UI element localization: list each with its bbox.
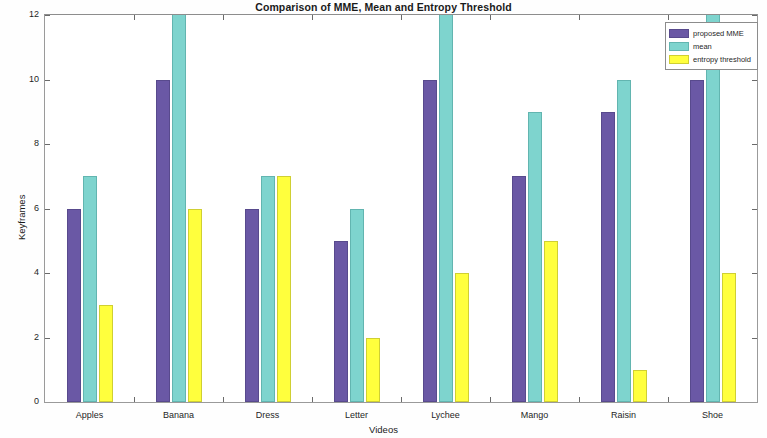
x-axis-tick	[312, 15, 313, 20]
legend-swatch-mean	[669, 42, 689, 51]
bar-letter-series-1	[350, 209, 364, 403]
bar-letter-series-2	[366, 338, 380, 403]
y-axis-tick-label: 4	[5, 267, 39, 277]
x-axis-title: Videos	[0, 424, 767, 435]
legend-swatch-proposed-mme	[669, 29, 689, 38]
y-axis-tick	[45, 15, 50, 16]
y-axis-tick	[752, 402, 757, 403]
bar-dress-series-0	[245, 209, 259, 403]
bar-mango-series-2	[544, 241, 558, 402]
x-axis-category-lychee: Lychee	[431, 410, 460, 420]
x-axis-category-letter: Letter	[345, 410, 368, 420]
x-axis-tick	[401, 397, 402, 402]
bar-banana-series-2	[188, 209, 202, 403]
legend-label-entropy-threshold: entropy threshold	[693, 55, 751, 64]
y-axis-tick	[45, 338, 50, 339]
bar-mango-series-1	[528, 112, 542, 402]
plot-area	[44, 14, 758, 403]
y-axis-tick-label: 10	[5, 74, 39, 84]
x-axis-tick	[490, 15, 491, 20]
y-axis-title: Keyframes	[16, 195, 27, 240]
y-axis-tick	[45, 209, 50, 210]
x-axis-category-raisin: Raisin	[611, 410, 636, 420]
bar-raisin-series-2	[633, 370, 647, 402]
x-axis-category-dress: Dress	[256, 410, 280, 420]
bar-dress-series-2	[277, 176, 291, 402]
y-axis-tick	[45, 273, 50, 274]
x-axis-category-apples: Apples	[76, 410, 104, 420]
bar-letter-series-0	[334, 241, 348, 402]
x-axis-tick	[223, 397, 224, 402]
legend-item: mean	[669, 40, 754, 52]
bar-lychee-series-0	[423, 80, 437, 403]
y-axis-tick	[752, 80, 757, 81]
bar-raisin-series-1	[617, 80, 631, 403]
bar-raisin-series-0	[601, 112, 615, 402]
y-axis-tick	[752, 273, 757, 274]
y-axis-tick	[752, 209, 757, 210]
chart-figure: Comparison of MME, Mean and Entropy Thre…	[0, 0, 767, 438]
x-axis-tick	[757, 397, 758, 402]
x-axis-tick	[668, 15, 669, 20]
bar-banana-series-0	[156, 80, 170, 403]
bar-mango-series-0	[512, 176, 526, 402]
x-axis-category-banana: Banana	[163, 410, 194, 420]
x-axis-tick	[401, 15, 402, 20]
x-axis-tick	[134, 397, 135, 402]
y-axis-tick	[752, 144, 757, 145]
y-axis-tick	[45, 402, 50, 403]
bar-apples-series-0	[67, 209, 81, 403]
x-axis-tick	[223, 15, 224, 20]
x-axis-tick	[312, 397, 313, 402]
legend-item: entropy threshold	[669, 53, 754, 65]
x-axis-category-shoe: Shoe	[702, 410, 723, 420]
bar-dress-series-1	[261, 176, 275, 402]
legend-swatch-entropy-threshold	[669, 55, 689, 64]
y-axis-tick	[752, 338, 757, 339]
y-axis-tick-label: 8	[5, 138, 39, 148]
x-axis-tick	[579, 397, 580, 402]
bar-apples-series-1	[83, 176, 97, 402]
bar-lychee-series-1	[439, 14, 453, 402]
x-axis-tick	[579, 15, 580, 20]
legend-label-mean: mean	[693, 42, 712, 51]
x-axis-tick	[668, 397, 669, 402]
bar-shoe-series-0	[690, 80, 704, 403]
y-axis-tick-label: 12	[5, 9, 39, 19]
x-axis-tick	[757, 15, 758, 20]
legend-label-proposed-mme: proposed MME	[693, 29, 744, 38]
bar-apples-series-2	[99, 305, 113, 402]
y-axis-tick-label: 0	[5, 396, 39, 406]
chart-title: Comparison of MME, Mean and Entropy Thre…	[0, 1, 767, 13]
y-axis-tick	[45, 80, 50, 81]
x-axis-category-mango: Mango	[521, 410, 549, 420]
bar-shoe-series-2	[722, 273, 736, 402]
plot-inner	[45, 15, 757, 402]
bar-shoe-series-1	[706, 14, 720, 402]
x-axis-tick	[490, 397, 491, 402]
bar-banana-series-1	[172, 14, 186, 402]
y-axis-tick	[45, 144, 50, 145]
bar-lychee-series-2	[455, 273, 469, 402]
y-axis-tick-label: 2	[5, 332, 39, 342]
chart-legend: proposed MME mean entropy threshold	[665, 22, 758, 70]
x-axis-tick	[134, 15, 135, 20]
legend-item: proposed MME	[669, 27, 754, 39]
